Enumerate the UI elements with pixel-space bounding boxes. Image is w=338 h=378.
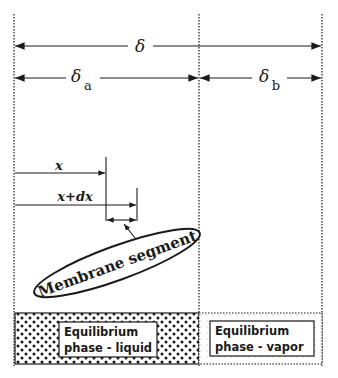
liquid-phase-line1: Equilibrium	[64, 325, 138, 339]
delta-total-dimension: δ	[15, 36, 321, 56]
delta-b-dimension: δ b	[200, 66, 321, 93]
x-plus-dx-label: x+dx	[56, 189, 93, 204]
delta-a-subscript: a	[84, 78, 92, 93]
liquid-phase-region: Equilibrium phase - liquid	[15, 313, 199, 364]
delta-label: δ	[135, 36, 145, 56]
x-label: x	[54, 158, 63, 173]
delta-a-dimension: δ a	[15, 66, 198, 93]
liquid-phase-line2: phase - liquid	[64, 341, 152, 355]
vapor-phase-line2: phase - vapor	[215, 340, 304, 354]
delta-a-symbol: δ	[71, 66, 81, 86]
vapor-phase-line1: Equilibrium	[215, 324, 289, 338]
delta-b-symbol: δ	[259, 66, 269, 86]
x-plus-dx-dimension: x+dx	[15, 188, 137, 221]
vapor-phase-region: Equilibrium phase - vapor	[199, 313, 322, 364]
membrane-segment-label: Membrane segment	[36, 227, 200, 301]
membrane-diagram: δ δ a δ b x x+dx Membrane segment Equil	[0, 0, 338, 378]
delta-b-subscript: b	[272, 78, 280, 93]
membrane-segment-callout: Membrane segment	[28, 217, 205, 309]
